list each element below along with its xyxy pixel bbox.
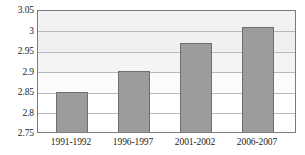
bar-chart: 3.05 3 2.95 2.9 2.85 2.8 2.75 1991-1992 … — [0, 0, 305, 155]
y-tick-label: 2.95 — [0, 46, 34, 56]
y-axis: 3.05 3 2.95 2.9 2.85 2.8 2.75 — [0, 0, 34, 155]
bar — [242, 27, 274, 132]
y-tick-label: 3.05 — [0, 5, 34, 15]
y-tick-label: 2.9 — [0, 67, 34, 77]
x-axis: 1991-1992 1996-1997 2001-2002 2006-2007 — [37, 135, 296, 155]
bar — [180, 43, 212, 132]
bar — [56, 92, 88, 132]
y-tick-label: 2.8 — [0, 108, 34, 118]
bar — [118, 71, 150, 132]
y-tick-label: 2.85 — [0, 87, 34, 97]
y-tick-label: 3 — [0, 26, 34, 36]
y-tick-label: 2.75 — [0, 128, 34, 138]
plot-area — [37, 10, 296, 133]
x-tick-label: 2006-2007 — [217, 137, 297, 148]
